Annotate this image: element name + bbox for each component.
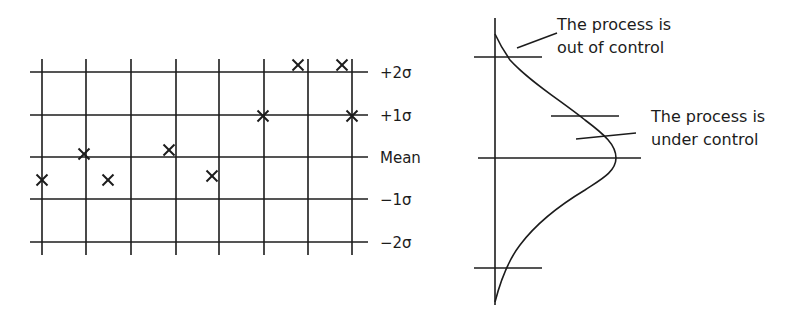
label-plus-1-sigma: +1σ (380, 107, 412, 125)
label-plus-2-sigma: +2σ (380, 64, 412, 82)
x-mark-icon (207, 171, 218, 182)
leader-line-out-of-control (517, 33, 557, 48)
level-labels: +2σ +1σ Mean −1σ −2σ (380, 64, 421, 252)
x-mark-icon (79, 149, 90, 160)
distribution-figure: The process is out of control The proces… (474, 15, 765, 305)
x-mark-icon (293, 60, 304, 71)
data-points (37, 60, 358, 186)
label-minus-2-sigma: −2σ (380, 234, 412, 252)
x-mark-icon (164, 145, 175, 156)
annotation-out-line2: out of control (557, 38, 664, 57)
label-mean: Mean (380, 149, 421, 167)
x-mark-icon (103, 175, 114, 186)
annotation-in-line2: under control (651, 130, 758, 149)
control-chart-diagram: +2σ +1σ Mean −1σ −2σ The process is out … (0, 0, 792, 316)
x-mark-icon (258, 111, 269, 122)
x-mark-icon (337, 60, 348, 71)
normal-curve (495, 34, 616, 302)
annotation-out-line1: The process is (556, 15, 671, 34)
annotation-in-line1: The process is (650, 107, 765, 126)
label-minus-1-sigma: −1σ (380, 191, 412, 209)
